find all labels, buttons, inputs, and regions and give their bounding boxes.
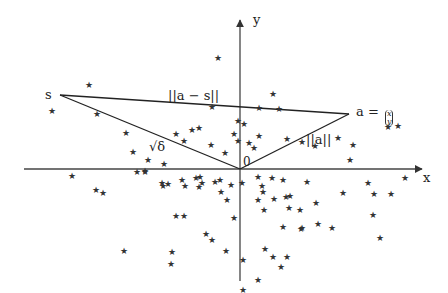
star-point: ★	[239, 256, 247, 265]
star-point: ★	[93, 110, 101, 119]
star-point: ★	[133, 168, 141, 177]
star-point: ★	[214, 54, 222, 63]
star-point: ★	[349, 141, 357, 150]
star-point: ★	[334, 134, 342, 143]
star-point: ★	[254, 276, 262, 285]
edge-sqrt-delta-label: √δ	[149, 140, 165, 153]
star-point: ★	[255, 104, 263, 113]
star-point: ★	[328, 224, 336, 233]
star-point: ★	[172, 130, 180, 139]
star-point: ★	[270, 195, 278, 204]
star-point: ★	[283, 135, 291, 144]
star-point: ★	[227, 181, 235, 190]
star-point: ★	[346, 156, 354, 165]
star-point: ★	[230, 214, 238, 223]
star-point: ★	[369, 211, 377, 220]
y-axis-label: y	[253, 13, 260, 26]
star-point: ★	[120, 247, 128, 256]
star-point: ★	[254, 196, 262, 205]
star-point: ★	[370, 190, 378, 199]
star-point: ★	[394, 122, 402, 131]
star-point: ★	[286, 192, 294, 201]
star-point: ★	[208, 103, 216, 112]
star-point: ★	[339, 189, 347, 198]
star-point: ★	[250, 144, 258, 153]
star-point: ★	[279, 176, 287, 185]
star-point: ★	[198, 179, 206, 188]
star-point: ★	[297, 225, 305, 234]
star-point: ★	[268, 174, 276, 183]
star-point: ★	[238, 179, 246, 188]
point-s-label: s	[45, 88, 52, 101]
star-point: ★	[255, 132, 263, 141]
star-point: ★	[364, 179, 372, 188]
edge-origin-to-a	[240, 114, 349, 169]
star-point: ★	[222, 247, 230, 256]
star-point: ★	[172, 212, 180, 221]
star-point: ★	[99, 189, 107, 198]
star-point: ★	[277, 263, 285, 272]
star-point: ★	[144, 156, 152, 165]
x-axis-label: x	[423, 171, 430, 184]
star-point: ★	[312, 199, 320, 208]
star-point: ★	[296, 206, 304, 215]
star-point: ★	[401, 174, 409, 183]
star-point: ★	[48, 107, 56, 116]
star-point: ★	[164, 180, 172, 189]
star-point: ★	[180, 137, 188, 146]
star-point: ★	[387, 190, 395, 199]
star-point: ★	[221, 149, 229, 158]
star-point: ★	[285, 204, 293, 213]
star-point: ★	[275, 105, 283, 114]
point-a-text: a =	[356, 104, 379, 119]
star-point: ★	[223, 196, 231, 205]
star-point: ★	[195, 124, 203, 133]
star-point: ★	[269, 253, 277, 262]
origin-label: 0	[243, 156, 251, 168]
star-point: ★	[314, 220, 322, 229]
star-point: ★	[303, 178, 311, 187]
star-point: ★	[261, 245, 269, 254]
star-point: ★	[234, 117, 242, 126]
star-point: ★	[167, 260, 175, 269]
star-point: ★	[129, 148, 137, 157]
star-point: ★	[234, 137, 242, 146]
star-point: ★	[207, 141, 215, 150]
star-point: ★	[180, 212, 188, 221]
star-point: ★	[85, 81, 93, 90]
star-point: ★	[269, 90, 277, 99]
edge-a-minus-s-label: ||a − s||	[168, 89, 219, 102]
star-point: ★	[208, 236, 216, 245]
star-point: ★	[216, 176, 224, 185]
star-point: ★	[68, 172, 76, 181]
star-point: ★	[168, 248, 176, 257]
star-point: ★	[384, 123, 392, 132]
star-point: ★	[279, 223, 287, 232]
star-point: ★	[217, 188, 225, 197]
star-point: ★	[160, 160, 168, 169]
star-point: ★	[181, 182, 189, 191]
star-point: ★	[283, 253, 291, 262]
star-point: ★	[239, 286, 247, 293]
star-point: ★	[141, 167, 149, 176]
star-point: ★	[260, 206, 268, 215]
star-point: ★	[122, 129, 130, 138]
star-point: ★	[311, 142, 319, 151]
star-point: ★	[376, 234, 384, 243]
star-point: ★	[298, 138, 306, 147]
